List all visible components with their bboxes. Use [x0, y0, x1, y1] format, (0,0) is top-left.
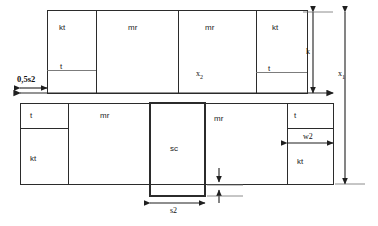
dimension-label-half-s2: 0,5s2	[17, 75, 35, 84]
cell-label-bot-t-right: t	[294, 112, 296, 120]
cell-label-bot-mr-1: mr	[100, 112, 109, 120]
cell-label-bot-kt-right: kt	[297, 158, 303, 166]
cell-label-bot-sc: sc	[170, 145, 178, 153]
t-marker-label-top-right: t	[268, 65, 270, 73]
cell-label-top-mr-2: mr	[205, 24, 214, 32]
dimension-x1	[335, 12, 365, 184]
diagram-linework	[0, 0, 378, 226]
cell-label-bot-mr-2: mr	[214, 115, 223, 123]
cell-label-top-mr-1: mr	[128, 24, 137, 32]
top-row-outline	[47, 10, 307, 93]
label-x2-subscript: 2	[200, 74, 203, 80]
diagram-canvas: kt mr mr kt t t x2 t kt mr sc mr t kt 0,…	[0, 0, 378, 226]
t-marker-label-top-left: t	[60, 63, 62, 71]
cell-label-bot-kt-left: kt	[30, 155, 36, 163]
dimension-label-k: k	[306, 48, 310, 56]
dimension-small-gap	[207, 168, 243, 203]
dimension-label-w2: w2	[303, 133, 313, 141]
label-x2: x2	[196, 70, 203, 80]
cell-label-top-kt-left: kt	[59, 24, 65, 32]
dimension-label-s2: s2	[170, 207, 177, 215]
cell-label-top-kt-right: kt	[272, 24, 278, 32]
cell-label-bot-t-left: t	[30, 112, 32, 120]
dimension-label-x1-subscript: 1	[342, 74, 345, 80]
dimension-label-x1: x1	[338, 70, 345, 80]
